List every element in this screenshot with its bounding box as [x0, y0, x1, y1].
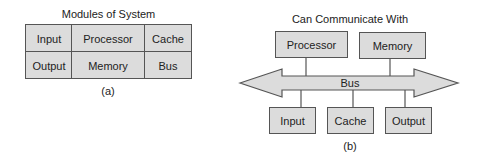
module-box-processor: Processor: [275, 31, 348, 58]
module-box-output: Output: [385, 107, 432, 134]
module-box-cache: Cache: [327, 107, 374, 134]
module-box-input: Input: [269, 107, 316, 134]
bus-label: Bus: [330, 76, 370, 90]
bus-diagram-graphics: [0, 0, 480, 165]
figure-b-caption: (b): [330, 140, 370, 152]
module-box-memory: Memory: [359, 32, 426, 59]
